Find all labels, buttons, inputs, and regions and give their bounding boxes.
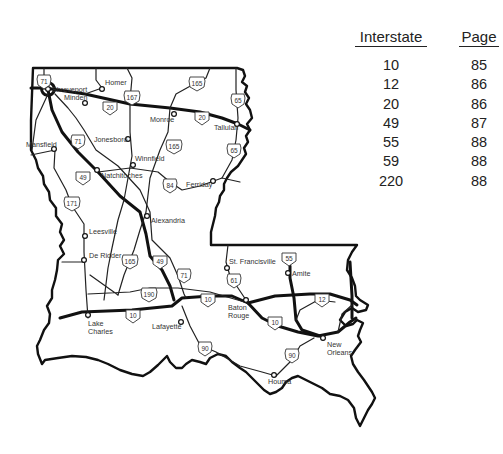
interstate-shield-10-west: 10 <box>126 310 140 323</box>
legend-header: Interstate Page <box>352 28 500 47</box>
us-shield-61: 61 <box>227 274 241 288</box>
svg-text:90: 90 <box>288 352 296 359</box>
city-label-tallulah: Tallulah <box>214 123 238 132</box>
us-shield-171: 171 <box>64 197 80 211</box>
interstate-shield-20-east: 20 <box>195 112 209 125</box>
us-shield-65-north: 65 <box>231 94 245 108</box>
svg-text:171: 171 <box>67 200 78 207</box>
svg-text:65: 65 <box>234 97 242 104</box>
city-label-minden: Minden <box>64 93 88 102</box>
interstate-shield-49-south: 49 <box>153 256 167 269</box>
svg-text:71: 71 <box>180 272 188 279</box>
svg-text:165: 165 <box>125 258 136 265</box>
interstate-shield-12: 12 <box>315 294 329 307</box>
us-shield-190: 190 <box>141 288 157 302</box>
svg-text:12: 12 <box>318 296 326 303</box>
city-label-mansfield: Mansfield <box>26 140 57 149</box>
svg-text:49: 49 <box>156 258 164 265</box>
us-shield-90-east: 90 <box>285 349 299 363</box>
interstate-shield-49-north: 49 <box>76 172 90 185</box>
city-label-alexandria: Alexandria <box>151 216 185 225</box>
us-shield-165-south: 165 <box>122 255 138 269</box>
svg-text:61: 61 <box>230 277 238 284</box>
svg-text:165: 165 <box>169 143 180 150</box>
interstate-shield-20-west: 20 <box>103 102 117 115</box>
svg-text:20: 20 <box>198 114 206 121</box>
svg-text:71: 71 <box>40 78 48 85</box>
svg-text:10: 10 <box>204 296 212 303</box>
us-shield-65-mid: 65 <box>227 144 241 158</box>
page-column-header: Page <box>459 28 499 47</box>
us-shield-90-west: 90 <box>198 342 212 356</box>
city-label-houma: Houma <box>268 377 291 386</box>
city-label-st-francisville: St. Francisville <box>229 257 276 266</box>
svg-text:49: 49 <box>79 174 87 181</box>
svg-text:165: 165 <box>192 80 203 87</box>
legend-row: 4987 <box>352 114 500 133</box>
interstate-column-header: Interstate <box>355 28 427 47</box>
legend-row: 22088 <box>352 172 500 191</box>
svg-text:71: 71 <box>74 138 82 145</box>
svg-text:10: 10 <box>271 319 279 326</box>
legend-row: 1085 <box>352 56 500 75</box>
city-label-de-ridder: De Ridder <box>89 251 122 260</box>
legend-row: 2086 <box>352 95 500 114</box>
svg-text:190: 190 <box>144 291 155 298</box>
interstate-page-index: Interstate Page 1085 1286 2086 4987 5588… <box>352 28 500 191</box>
city-label-monroe: Monroe <box>150 115 174 124</box>
us-shield-165-mid: 165 <box>166 140 182 154</box>
svg-text:10: 10 <box>129 312 137 319</box>
city-label-charles: Charles <box>88 327 113 336</box>
city-label-ferriday: Ferriday <box>186 180 213 189</box>
interstate-shield-55: 55 <box>282 253 296 266</box>
city-label-jonesboro: Jonesboro <box>94 135 128 144</box>
svg-text:55: 55 <box>285 255 293 262</box>
legend-row: 5588 <box>352 133 500 152</box>
svg-text:65: 65 <box>230 147 238 154</box>
city-label-leesville: Leesville <box>89 227 117 236</box>
interstate-shield-10-mid: 10 <box>201 294 215 307</box>
svg-text:20: 20 <box>106 104 114 111</box>
us-shield-165-north: 165 <box>189 77 205 91</box>
city-label-natchitoches: Natchitoches <box>101 171 143 180</box>
city-label-lafayette: Lafayette <box>152 322 182 331</box>
i-12-route <box>248 294 357 305</box>
city-label-orleans: Orleans <box>327 348 353 357</box>
svg-text:167: 167 <box>127 94 138 101</box>
city-label-rouge: Rouge <box>228 311 249 320</box>
city-label-winnfield: Winnfield <box>135 154 165 163</box>
us-shield-84: 84 <box>163 179 177 193</box>
city-label-homer: Homer <box>105 78 127 87</box>
legend-row: 5988 <box>352 152 500 171</box>
legend-row: 1286 <box>352 75 500 94</box>
svg-text:90: 90 <box>201 345 209 352</box>
svg-text:84: 84 <box>166 182 174 189</box>
city-label-amite: Amite <box>292 269 310 278</box>
